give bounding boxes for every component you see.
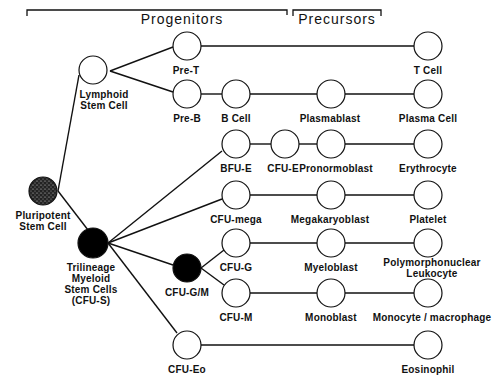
cfu-e-node (271, 130, 299, 158)
trilineage-label-line1: Trilineage (64, 262, 117, 273)
pmn-label-line1: Polymorphonuclear (383, 257, 480, 268)
b-cell-label: B Cell (221, 113, 251, 124)
trilineage-label-line2: Myeloid (64, 273, 117, 284)
megakaryoblast-node (317, 181, 345, 209)
monocyte-macrophage-node (414, 279, 442, 307)
bfu-e-label: BFU-E (220, 163, 252, 174)
pre-b-label: Pre-B (173, 113, 201, 124)
pluripotent-stem-cell-node (29, 177, 57, 205)
pre-t-label: Pre-T (173, 65, 200, 76)
cfu-m-label: CFU-M (219, 312, 252, 323)
cfu-g-node (222, 229, 250, 257)
erythrocyte-node (414, 130, 442, 158)
cfu-mega-node (222, 181, 250, 209)
plasmablast-label: Plasmablast (300, 113, 361, 124)
cfu-gm-node (173, 254, 201, 282)
precursors-header: Precursors (298, 11, 376, 27)
pmn-leukocyte-node (414, 229, 442, 257)
cfu-eo-node (173, 331, 201, 359)
lymphoid-label-line1: Lymphoid (79, 89, 128, 100)
pre-t-node (173, 32, 201, 60)
pmn-label-line2: Leukocyte (383, 268, 480, 279)
trilineage-myeloid-node (78, 228, 108, 258)
monoblast-node (317, 279, 345, 307)
megakaryoblast-label: Megakaryoblast (291, 214, 369, 225)
bfu-e-node (222, 130, 250, 158)
lymphoid-label-line2: Stem Cell (79, 100, 128, 111)
pluripotent-label: Pluripotent Stem Cell (16, 210, 71, 232)
erythrocyte-label: Erythrocyte (399, 163, 457, 174)
t-cell-node (414, 32, 442, 60)
hematopoiesis-diagram (0, 0, 499, 383)
cfu-eo-label: CFU-Eo (168, 364, 206, 375)
plasma-cell-node (414, 80, 442, 108)
monocyte-macrophage-label: Monocyte / macrophage (373, 312, 492, 323)
monoblast-label: Monoblast (305, 312, 357, 323)
cfu-m-node (222, 279, 250, 307)
myeloblast-node (317, 229, 345, 257)
myeloblast-label: Myeloblast (304, 262, 358, 273)
b-cell-node (222, 80, 250, 108)
cfu-e-label: CFU-E (267, 163, 299, 174)
pluripotent-label-line2: Stem Cell (16, 221, 71, 232)
lymphoid-stem-cell-node (79, 56, 107, 84)
plasmablast-node (317, 80, 345, 108)
t-cell-label: T Cell (414, 65, 442, 76)
plasma-cell-label: Plasma Cell (399, 113, 457, 124)
pre-b-node (173, 80, 201, 108)
eosinophil-label: Eosinophil (401, 364, 454, 375)
trilineage-label: Trilineage Myeloid Stem Cells (CFU-S) (64, 262, 117, 306)
trilineage-label-line3: Stem Cells (64, 284, 117, 295)
cfu-mega-label: CFU-mega (210, 214, 262, 225)
pronormoblast-node (317, 130, 345, 158)
lymphoid-label: Lymphoid Stem Cell (79, 89, 128, 111)
pmn-label: Polymorphonuclear Leukocyte (383, 257, 480, 279)
eosinophil-node (414, 331, 442, 359)
cfu-gm-label: CFU-G/M (165, 287, 209, 298)
pronormoblast-label: Pronormoblast (299, 163, 373, 174)
platelet-node (414, 181, 442, 209)
progenitors-header: Progenitors (141, 11, 224, 27)
pluripotent-label-line1: Pluripotent (16, 210, 71, 221)
trilineage-label-line4: (CFU-S) (64, 295, 117, 306)
cfu-g-label: CFU-G (220, 262, 253, 273)
platelet-label: Platelet (409, 214, 446, 225)
